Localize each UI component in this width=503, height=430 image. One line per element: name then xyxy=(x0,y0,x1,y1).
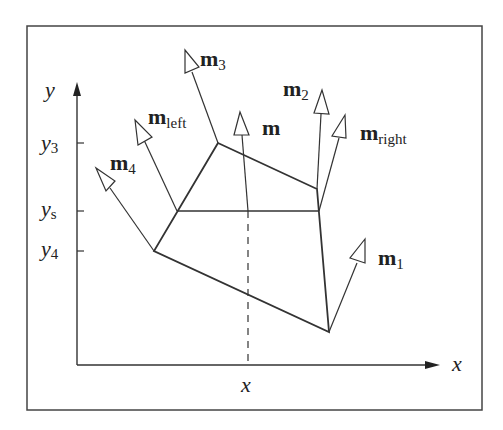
y3-label: y3 xyxy=(39,130,58,156)
normal-m xyxy=(234,112,249,211)
m3-arrowhead-icon xyxy=(185,50,199,73)
x-axis-label: x xyxy=(451,351,462,376)
x-axis xyxy=(77,361,440,369)
normal-m4 xyxy=(96,168,154,251)
m-right-arrowhead-icon xyxy=(332,115,346,138)
normal-m2 xyxy=(314,90,329,189)
figure-frame xyxy=(27,26,482,410)
polygon-face xyxy=(154,143,329,332)
y-axis xyxy=(73,82,81,365)
m-arrowhead-icon xyxy=(234,112,249,135)
phong-normal-interpolation-diagram: y x x y3 ys y4 m3 mleft m4 m m2 m xyxy=(0,0,503,430)
m1-label: m1 xyxy=(378,245,404,272)
m1-arrowhead-icon xyxy=(350,239,365,263)
m-right-label: mright xyxy=(360,120,407,147)
m-label: m xyxy=(262,115,280,140)
ys-label: ys xyxy=(39,196,57,222)
y-axis-arrowhead-icon xyxy=(73,82,81,96)
normal-m-left xyxy=(135,120,177,211)
m4-label: m4 xyxy=(110,150,136,177)
normal-m1 xyxy=(329,239,365,332)
m2-label: m2 xyxy=(283,76,309,103)
y4-label: y4 xyxy=(39,236,59,262)
y-axis-label: y xyxy=(43,77,55,102)
x-tick-label: x xyxy=(240,372,251,397)
m-left-label: mleft xyxy=(148,104,187,131)
m3-label: m3 xyxy=(200,46,226,73)
normal-m-right xyxy=(319,115,346,211)
m2-arrowhead-icon xyxy=(314,90,329,114)
x-axis-arrowhead-icon xyxy=(425,361,440,369)
